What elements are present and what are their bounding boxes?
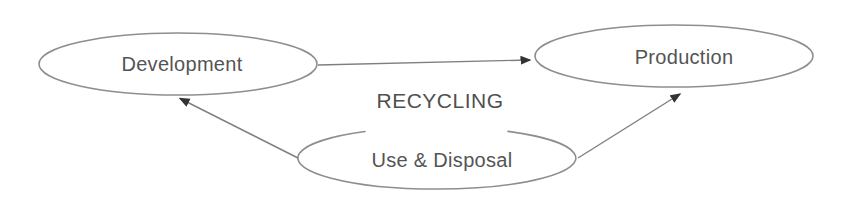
use-disposal-node-label: Use & Disposal	[372, 149, 513, 172]
recycling-diagram: Development Production Use & Disposal RE…	[0, 0, 844, 203]
edge-development-to-production	[318, 60, 530, 65]
edge-use-disposal-to-development	[180, 99, 298, 159]
edge-use-disposal-to-production	[578, 94, 680, 158]
recycling-caption: RECYCLING	[376, 89, 503, 113]
production-node-label: Production	[635, 46, 734, 69]
development-node-label: Development	[121, 53, 242, 76]
